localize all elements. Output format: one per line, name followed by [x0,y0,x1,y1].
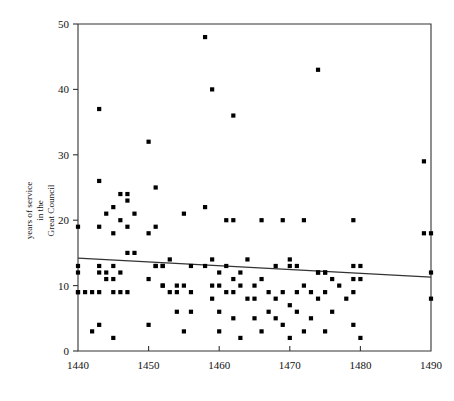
data-point [245,297,249,301]
data-point [302,329,306,333]
data-point [259,329,263,333]
data-point [154,185,158,189]
trend-line [78,258,431,277]
data-point [97,323,101,327]
data-point [189,310,193,314]
data-point [210,284,214,288]
data-point [259,218,263,222]
data-point [182,212,186,216]
data-point [351,218,355,222]
data-point [97,290,101,294]
data-point [274,264,278,268]
data-point [330,277,334,281]
data-point [238,284,242,288]
data-point [125,198,129,202]
plot-frame [78,24,431,351]
data-point [267,310,271,314]
data-point [295,310,299,314]
data-point [231,290,235,294]
data-point [429,231,433,235]
data-point [288,303,292,307]
data-point [245,257,249,261]
x-tick-label: 1490 [420,359,443,371]
data-point [76,264,80,268]
data-point [210,87,214,91]
data-point [76,270,80,274]
data-point [316,68,320,72]
data-point [175,284,179,288]
data-point [231,218,235,222]
data-point [281,218,285,222]
data-point [330,310,334,314]
data-point [351,264,355,268]
data-point [210,257,214,261]
y-tick-label: 10 [58,280,70,292]
data-point [224,290,228,294]
data-point [97,225,101,229]
y-tick-label: 0 [64,345,70,357]
x-tick-label: 1440 [67,359,90,371]
data-point [118,218,122,222]
data-point [302,218,306,222]
data-point [252,284,256,288]
data-point [182,284,186,288]
data-points [76,35,433,340]
data-point [238,270,242,274]
data-point [147,140,151,144]
data-point [337,284,341,288]
axes [78,24,431,351]
data-point [125,192,129,196]
data-point [111,277,115,281]
data-point [90,290,94,294]
regression-line [78,258,431,277]
data-point [76,225,80,229]
data-point [90,329,94,333]
data-point [316,297,320,301]
data-point [323,329,327,333]
data-point [217,270,221,274]
data-point [83,290,87,294]
data-point [118,290,122,294]
data-point [217,329,221,333]
data-point [295,290,299,294]
data-point [238,336,242,340]
data-point [97,270,101,274]
data-point [147,277,151,281]
data-point [154,225,158,229]
data-point [429,270,433,274]
y-tick-label: 30 [58,149,70,161]
data-point [259,277,263,281]
data-point [217,310,221,314]
data-point [281,290,285,294]
data-point [351,323,355,327]
data-point [323,290,327,294]
data-point [288,336,292,340]
data-point [111,290,115,294]
x-tick-label: 1470 [279,359,302,371]
data-point [344,297,348,301]
data-point [309,290,313,294]
data-point [358,264,362,268]
data-point [231,113,235,117]
data-point [358,336,362,340]
data-point [147,231,151,235]
data-point [111,336,115,340]
data-point [161,284,165,288]
data-point [97,179,101,183]
data-point [76,290,80,294]
data-point [281,323,285,327]
data-point [203,264,207,268]
data-point [118,192,122,196]
data-point [125,290,129,294]
data-point [182,329,186,333]
data-point [189,264,193,268]
x-tick-label: 1450 [138,359,161,371]
data-point [104,270,108,274]
data-point [154,264,158,268]
data-point [288,264,292,268]
data-point [175,310,179,314]
data-point [104,212,108,216]
data-point [189,290,193,294]
y-tick-label: 50 [58,18,70,30]
data-point [358,277,362,281]
